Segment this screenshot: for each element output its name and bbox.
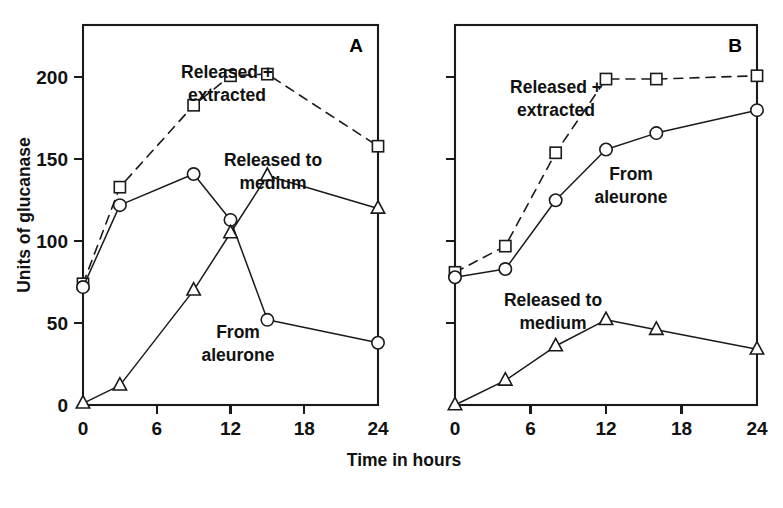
- data-point-square-8: [550, 147, 561, 158]
- data-point-triangle-12: [599, 312, 612, 324]
- panel-a-label-released-medium-line1: Released to: [224, 150, 322, 170]
- data-point-circle-0: [77, 281, 89, 293]
- y-axis-title: Units of glucanase: [14, 137, 34, 293]
- series-b-square: [449, 70, 762, 278]
- x-tick-label-b-24: 24: [746, 418, 768, 439]
- series-line-square: [83, 74, 378, 284]
- data-point-square-12: [600, 73, 611, 84]
- series-line-triangle: [455, 320, 757, 405]
- data-point-square-3: [114, 182, 125, 193]
- series-b-triangle: [448, 312, 763, 410]
- data-point-circle-24: [372, 337, 384, 349]
- data-point-circle-15: [261, 314, 273, 326]
- data-point-square-4: [500, 241, 511, 252]
- series-line-circle: [83, 174, 378, 343]
- data-point-triangle-4: [499, 373, 512, 385]
- data-point-circle-4: [499, 263, 511, 275]
- series-line-triangle: [83, 176, 378, 404]
- data-point-circle-24: [751, 104, 763, 116]
- y-tick-label-150: 150: [36, 149, 68, 170]
- panel-a-label-released-medium-line2: medium: [239, 173, 306, 193]
- data-point-circle-8: [549, 194, 561, 206]
- x-tick-label-a-0: 0: [78, 418, 89, 439]
- data-point-square-24: [751, 70, 762, 81]
- panel-a-letter: A: [349, 35, 363, 56]
- data-point-circle-9: [187, 168, 199, 180]
- data-point-square-16: [651, 73, 662, 84]
- x-tick-label-b-12: 12: [595, 418, 616, 439]
- panel-a-label-from-aleurone-line1: From: [216, 322, 260, 342]
- x-axis-title: Time in hours: [347, 450, 462, 470]
- x-tick-label-a-6: 6: [151, 418, 162, 439]
- x-tick-label-b-0: 0: [450, 418, 461, 439]
- y-tick-label-200: 200: [36, 67, 68, 88]
- data-point-circle-0: [449, 271, 461, 283]
- figure-container: 5010015020000612182406121824ABReleased +…: [0, 0, 783, 508]
- x-tick-label-a-12: 12: [220, 418, 241, 439]
- panel-a-label-released-extracted-line1: Released +: [181, 62, 273, 82]
- y-tick-label-100: 100: [36, 231, 68, 252]
- panel-a-label-released-extracted-line2: extracted: [188, 85, 266, 105]
- panel-b-label-released-medium-line2: medium: [519, 313, 586, 333]
- x-tick-label-b-18: 18: [671, 418, 692, 439]
- chart-svg: 5010015020000612182406121824ABReleased +…: [0, 0, 783, 508]
- data-point-square-24: [372, 141, 383, 152]
- y-tick-label-0: 0: [57, 395, 68, 416]
- data-point-circle-3: [114, 199, 126, 211]
- x-tick-label-a-24: 24: [367, 418, 389, 439]
- panel-b-label-from-aleurone-line2: aleurone: [595, 187, 668, 207]
- panel-b-label-released-extracted-line2: extracted: [517, 100, 595, 120]
- panel-b-label-released-medium-line1: Released to: [504, 290, 602, 310]
- data-point-triangle-8: [549, 338, 562, 350]
- panel-b-label-released-extracted-line1: Released +: [510, 77, 602, 97]
- x-tick-label-a-18: 18: [294, 418, 315, 439]
- panel-b-letter: B: [728, 35, 742, 56]
- data-point-triangle-9: [187, 283, 200, 295]
- data-point-circle-12: [600, 143, 612, 155]
- panel-b-label-from-aleurone-line1: From: [609, 164, 653, 184]
- panel-a-label-from-aleurone-line2: aleurone: [202, 345, 275, 365]
- x-tick-label-b-6: 6: [525, 418, 536, 439]
- y-tick-label-50: 50: [47, 313, 68, 334]
- data-point-circle-16: [650, 127, 662, 139]
